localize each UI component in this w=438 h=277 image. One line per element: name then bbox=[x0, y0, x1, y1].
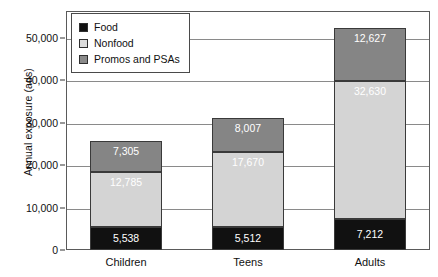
bar-segment-nonfood[interactable]: 12,785 bbox=[90, 172, 162, 226]
y-tick-mark bbox=[60, 250, 65, 251]
x-tick-label-children: Children bbox=[66, 256, 186, 268]
legend-label-food: Food bbox=[94, 21, 118, 33]
y-tick-label: 50,000 bbox=[0, 32, 58, 44]
y-tick-label: 30,000 bbox=[0, 117, 58, 129]
chart-legend: Food Nonfood Promos and PSAs bbox=[71, 13, 190, 73]
y-tick-mark bbox=[60, 38, 65, 39]
bar-value-label: 12,627 bbox=[354, 33, 386, 44]
bar-segment-promos[interactable]: 7,305 bbox=[90, 141, 162, 172]
y-tick-mark bbox=[60, 207, 65, 208]
y-tick-mark bbox=[60, 122, 65, 123]
bar-segment-food[interactable]: 7,212 bbox=[334, 219, 406, 250]
y-tick-label: 0 bbox=[0, 244, 58, 256]
bar-value-label: 8,007 bbox=[235, 123, 261, 134]
bar-segment-food[interactable]: 5,538 bbox=[90, 227, 162, 250]
y-tick-label: 10,000 bbox=[0, 202, 58, 214]
y-tick-label: 40,000 bbox=[0, 74, 58, 86]
legend-item-promos: Promos and PSAs bbox=[79, 51, 180, 67]
bar-value-label: 5,538 bbox=[113, 233, 139, 244]
y-tick-label: 20,000 bbox=[0, 159, 58, 171]
bar-value-label: 32,630 bbox=[354, 86, 386, 97]
legend-item-food: Food bbox=[79, 19, 180, 35]
bar-value-label: 17,670 bbox=[232, 157, 264, 168]
bar-segment-promos[interactable]: 12,627 bbox=[334, 28, 406, 82]
bar-segment-nonfood[interactable]: 32,630 bbox=[334, 81, 406, 219]
legend-swatch-promos-icon bbox=[79, 55, 88, 64]
bar-group[interactable]: 7,21232,63012,627 bbox=[334, 11, 406, 250]
bar-segment-food[interactable]: 5,512 bbox=[212, 227, 284, 250]
legend-item-nonfood: Nonfood bbox=[79, 35, 180, 51]
bar-segment-nonfood[interactable]: 17,670 bbox=[212, 152, 284, 227]
y-tick-mark bbox=[60, 80, 65, 81]
legend-swatch-food-icon bbox=[79, 23, 88, 32]
x-tick-label-teens: Teens bbox=[188, 256, 308, 268]
bar-value-label: 5,512 bbox=[235, 233, 261, 244]
legend-swatch-nonfood-icon bbox=[79, 39, 88, 48]
x-tick-label-adults: Adults bbox=[310, 256, 430, 268]
stacked-bar-chart: Annual exposure (ads) 010,00020,00030,00… bbox=[0, 0, 438, 277]
bar-value-label: 12,785 bbox=[110, 177, 142, 188]
bar-segment-promos[interactable]: 8,007 bbox=[212, 118, 284, 152]
bar-group[interactable]: 5,51217,6708,007 bbox=[212, 11, 284, 250]
y-tick-mark bbox=[60, 165, 65, 166]
bar-value-label: 7,212 bbox=[357, 229, 383, 240]
legend-label-nonfood: Nonfood bbox=[94, 37, 134, 49]
legend-label-promos: Promos and PSAs bbox=[94, 53, 180, 65]
bar-value-label: 7,305 bbox=[113, 146, 139, 157]
